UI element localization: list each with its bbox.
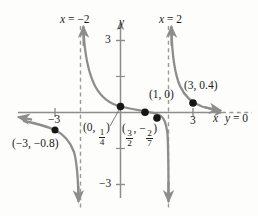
point-label-0-quarter: (0, 14) — [83, 122, 110, 148]
point-label-1-0: (1, 0) — [149, 89, 174, 101]
point-label-neg3-neg0.8: (−3, −0.8) — [12, 138, 59, 150]
label-asymptote-x-2: x = 2 — [159, 14, 182, 26]
rational-function-figure: x = −2 x = 2 y x y = 0 3 −3 −3 3 (−3, −0… — [0, 0, 258, 216]
curve-right-branch — [171, 26, 221, 111]
point-label-0-quarter-suffix: ) — [106, 121, 110, 133]
point-label-threehalves-negtwosevenths: (32, −27) — [122, 123, 157, 149]
curve-left-branch — [18, 117, 79, 202]
curve-middle-branch — [83, 26, 168, 202]
y-tick-label-neg3: −3 — [99, 178, 111, 190]
fraction-one-quarter: 14 — [99, 128, 106, 148]
axis-label-x: x — [213, 113, 218, 125]
x-tick-label-neg3: −3 — [48, 114, 60, 126]
point-threehalves-negtwosevenths — [153, 114, 161, 122]
point-label-3-0.4: (3, 0.4) — [184, 80, 218, 92]
label-asymptote-x-neg2: x = −2 — [60, 14, 90, 26]
y-tick-label-3: 3 — [105, 34, 111, 46]
point-0-quarter — [117, 103, 125, 111]
axis-label-y: y — [119, 17, 124, 29]
fraction-three-halves: 32 — [126, 129, 133, 149]
label-asymptote-y-0: y = 0 — [225, 113, 248, 125]
point-3-0.4 — [189, 99, 197, 107]
point-neg3-neg0.8 — [52, 127, 59, 134]
x-tick-label-3: 3 — [190, 115, 196, 127]
fraction-two-sevenths: 27 — [146, 129, 153, 149]
point-1-0 — [141, 109, 149, 117]
point-label-0-quarter-prefix: (0, — [83, 121, 98, 133]
graph-canvas — [0, 0, 258, 216]
